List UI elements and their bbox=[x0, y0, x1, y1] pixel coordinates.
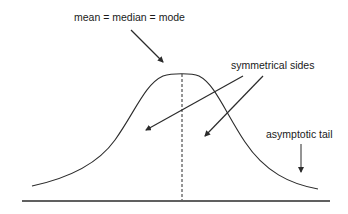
diagram-graphics bbox=[0, 0, 348, 214]
asymptotic-tail-label: asymptotic tail bbox=[266, 128, 333, 140]
normal-distribution-diagram: mean = median = mode symmetrical sides a… bbox=[0, 0, 348, 214]
right-side-arrow bbox=[205, 76, 263, 136]
center-arrow bbox=[131, 30, 163, 62]
symmetrical-sides-label: symmetrical sides bbox=[231, 59, 314, 71]
left-side-arrow bbox=[146, 76, 243, 130]
center-label: mean = median = mode bbox=[74, 11, 185, 23]
